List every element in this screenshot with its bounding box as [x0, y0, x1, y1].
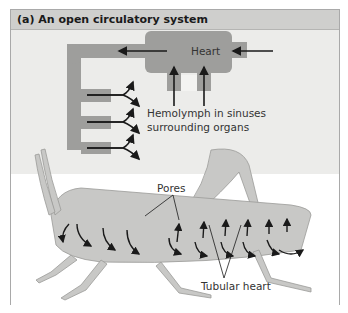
- diagram-drawing: [11, 10, 341, 306]
- pores-label: Pores: [157, 182, 185, 195]
- hemolymph-label-line1: Hemolymph in sinuses: [147, 107, 266, 120]
- figure-panel: (a) An open circulatory system: [10, 9, 340, 305]
- tubular-heart-label: Tubular heart: [201, 280, 271, 293]
- heart-gap: [181, 75, 197, 91]
- hemolymph-label-line2: surrounding organs: [147, 121, 249, 134]
- heart-label: Heart: [191, 45, 220, 58]
